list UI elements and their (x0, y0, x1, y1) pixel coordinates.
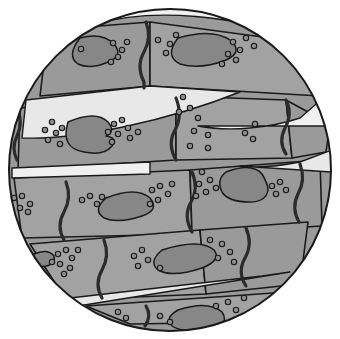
organelle-granule (237, 47, 242, 52)
organelle-granule (53, 130, 58, 135)
organelle-granule (119, 47, 124, 52)
organelle-granule (125, 125, 130, 130)
organelle-granule (155, 37, 160, 42)
organelle-granule (273, 191, 278, 196)
organelle-granule (215, 255, 220, 260)
organelle-granule (180, 94, 185, 99)
organelle-granule (49, 119, 54, 124)
organelle-granule (59, 125, 64, 130)
organelle-granule (242, 130, 247, 135)
organelle-granule (124, 39, 129, 44)
organelle-granule (157, 183, 162, 188)
organelle-granule (213, 303, 218, 308)
organelle-granule (231, 259, 236, 264)
organelle-granule (111, 121, 116, 126)
organelle-granule (205, 132, 210, 137)
organelle-granule (207, 237, 212, 242)
organelle-granule (135, 263, 140, 268)
organelle-granule (283, 187, 288, 192)
organelle-granule (169, 181, 174, 186)
organelle-granule (187, 105, 192, 110)
organelle-granule (55, 251, 60, 256)
organelle-granule (251, 43, 256, 48)
organelle-granule (131, 253, 136, 258)
organelle-granule (67, 265, 72, 270)
organelle-granule (193, 193, 198, 198)
nucleus (220, 167, 268, 202)
organelle-granule (173, 32, 178, 37)
organelle-granule (233, 307, 238, 312)
organelle-granule (69, 255, 74, 260)
micrograph-figure (0, 0, 340, 339)
organelle-granule (61, 271, 66, 276)
organelle-granule (27, 201, 32, 206)
organelle-granule (163, 50, 168, 55)
cardiac-muscle-micrograph (0, 0, 340, 339)
organelle-granule (17, 205, 22, 210)
organelle-granule (187, 143, 192, 148)
organelle-granule (195, 115, 200, 120)
organelle-granule (94, 201, 99, 206)
organelle-granule (277, 179, 282, 184)
organelle-granule (135, 129, 140, 134)
organelle-granule (49, 259, 54, 264)
organelle-granule (269, 183, 274, 188)
organelle-granule (99, 194, 104, 199)
organelle-granule (191, 128, 196, 133)
organelle-granule (127, 135, 132, 140)
organelle-granule (57, 141, 62, 146)
organelle-granule (78, 46, 83, 51)
organelle-granule (225, 51, 230, 56)
organelle-granule (45, 137, 50, 142)
organelle-granule (57, 261, 62, 266)
organelle-granule (205, 145, 210, 150)
organelle-granule (157, 313, 162, 318)
organelle-granule (213, 185, 218, 190)
organelle-granule (250, 136, 255, 141)
organelle-granule (79, 197, 84, 202)
organelle-granule (241, 295, 246, 300)
organelle-granule (233, 57, 238, 62)
organelle-granule (243, 35, 248, 40)
organelle-granule (227, 249, 232, 254)
organelle-granule (108, 59, 113, 64)
organelle-granule (110, 40, 115, 45)
organelle-granule (207, 177, 212, 182)
organelle-granule (147, 201, 152, 206)
organelle-granule (219, 61, 224, 66)
organelle-granule (176, 109, 181, 114)
organelle-granule (157, 265, 162, 270)
organelle-granule (145, 257, 150, 262)
field-of-view-contents (9, 9, 332, 331)
organelle-granule (230, 39, 235, 44)
organelle-granule (105, 129, 110, 134)
organelle-granule (42, 127, 47, 132)
organelle-granule (225, 299, 230, 304)
organelle-granule (139, 247, 144, 252)
organelle-granule (123, 315, 128, 320)
organelle-granule (219, 241, 224, 246)
organelle-granule (165, 191, 170, 196)
organelle-granule (199, 169, 204, 174)
organelle-granule (149, 187, 154, 192)
organelle-granule (119, 117, 124, 122)
organelle-granule (25, 209, 30, 214)
organelle-granule (19, 193, 24, 198)
organelle-granule (167, 319, 172, 324)
organelle-granule (109, 139, 114, 144)
organelle-granule (115, 131, 120, 136)
organelle-granule (196, 181, 201, 186)
organelle-granule (115, 309, 120, 314)
organelle-granule (203, 189, 208, 194)
organelle-granule (167, 41, 172, 46)
organelle-granule (155, 197, 160, 202)
organelle-granule (252, 121, 257, 126)
organelle-granule (87, 193, 92, 198)
organelle-granule (115, 54, 120, 59)
organelle-granule (75, 247, 80, 252)
organelle-granule (63, 247, 68, 252)
